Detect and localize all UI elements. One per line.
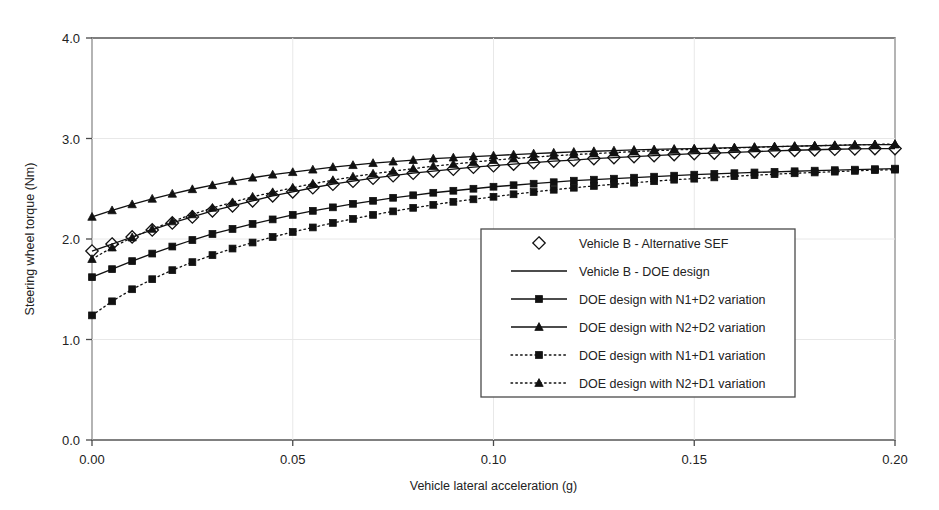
legend-label: DOE design with N1+D2 variation (579, 293, 766, 307)
y-tick-label: 2.0 (62, 232, 80, 247)
marker-square (109, 266, 116, 273)
x-tick-label: 0.15 (682, 452, 707, 467)
y-tick-label: 1.0 (62, 333, 80, 348)
marker-square (590, 176, 597, 183)
marker-square (249, 221, 256, 228)
marker-square (530, 180, 537, 187)
marker-square (189, 237, 196, 244)
legend-box (481, 229, 795, 397)
marker-square (330, 204, 337, 211)
marker-square (450, 187, 457, 194)
chart-legend: Vehicle B - Alternative SEFVehicle B - D… (481, 229, 795, 397)
marker-triangle (329, 176, 337, 184)
marker-square (550, 179, 557, 186)
marker-square (350, 200, 357, 207)
marker-square (229, 245, 236, 252)
marker-triangle (88, 255, 96, 263)
marker-square (510, 182, 517, 189)
marker-square (169, 243, 176, 250)
marker-triangle (409, 164, 417, 172)
marker-square (831, 168, 838, 175)
marker-square (490, 183, 497, 190)
marker-square (631, 179, 638, 186)
marker-square (711, 174, 718, 181)
marker-square (209, 231, 216, 238)
marker-square (350, 216, 357, 223)
marker-square (189, 259, 196, 266)
legend-label: DOE design with N2+D2 variation (579, 321, 766, 335)
legend-label: Vehicle B - Alternative SEF (579, 237, 729, 251)
marker-square (410, 204, 417, 211)
marker-square (691, 175, 698, 182)
marker-square (309, 224, 316, 231)
marker-square (430, 189, 437, 196)
marker-square (229, 226, 236, 233)
marker-square (209, 252, 216, 259)
marker-square (611, 181, 618, 188)
marker-square (129, 286, 136, 293)
y-tick-label: 3.0 (62, 132, 80, 147)
marker-square (309, 207, 316, 214)
marker-square (751, 172, 758, 179)
marker-square (249, 239, 256, 246)
marker-square (330, 220, 337, 227)
marker-square (671, 176, 678, 183)
x-tick-label: 0.00 (79, 452, 104, 467)
marker-square (771, 171, 778, 178)
x-tick-label: 0.05 (280, 452, 305, 467)
marker-square (651, 178, 658, 185)
marker-square (390, 194, 397, 201)
x-tick-label: 0.10 (481, 452, 506, 467)
x-axis-title: Vehicle lateral acceleration (g) (410, 479, 577, 493)
marker-square (269, 234, 276, 241)
marker-square (530, 189, 537, 196)
marker-square (169, 267, 176, 274)
y-tick-label: 4.0 (62, 31, 80, 46)
marker-square (536, 352, 543, 359)
marker-square (289, 229, 296, 236)
y-tick-label: 0.0 (62, 433, 80, 448)
marker-square (570, 184, 577, 191)
marker-square (470, 196, 477, 203)
marker-square (149, 276, 156, 283)
chart-figure: 0.000.050.100.150.20 0.01.02.03.04.0 Veh… (0, 0, 939, 510)
marker-square (872, 167, 879, 174)
marker-square (410, 192, 417, 199)
marker-square (89, 312, 96, 319)
marker-square (590, 183, 597, 190)
marker-square (289, 211, 296, 218)
marker-square (731, 173, 738, 180)
marker-square (536, 296, 543, 303)
marker-square (811, 169, 818, 176)
marker-square (89, 274, 96, 281)
marker-square (370, 211, 377, 218)
marker-square (570, 177, 577, 184)
x-tick-label: 0.20 (882, 452, 907, 467)
chart-canvas: 0.000.050.100.150.20 0.01.02.03.04.0 Veh… (0, 0, 939, 510)
y-axis-title: Steering wheel torque (Nm) (23, 163, 37, 316)
legend-label: DOE design with N1+D1 variation (579, 349, 766, 363)
marker-square (129, 258, 136, 265)
marker-square (892, 166, 899, 173)
marker-square (550, 186, 557, 193)
marker-square (430, 201, 437, 208)
marker-square (390, 208, 397, 215)
marker-square (851, 167, 858, 174)
marker-square (269, 216, 276, 223)
marker-triangle (309, 179, 317, 187)
marker-square (109, 298, 116, 305)
marker-square (470, 185, 477, 192)
marker-square (510, 191, 517, 198)
legend-label: DOE design with N2+D1 variation (579, 377, 766, 391)
legend-label: Vehicle B - DOE design (579, 265, 710, 279)
marker-square (791, 170, 798, 177)
marker-square (490, 193, 497, 200)
marker-square (149, 250, 156, 257)
marker-triangle (248, 192, 256, 200)
marker-triangle (429, 162, 437, 170)
marker-square (450, 198, 457, 205)
marker-square (370, 197, 377, 204)
